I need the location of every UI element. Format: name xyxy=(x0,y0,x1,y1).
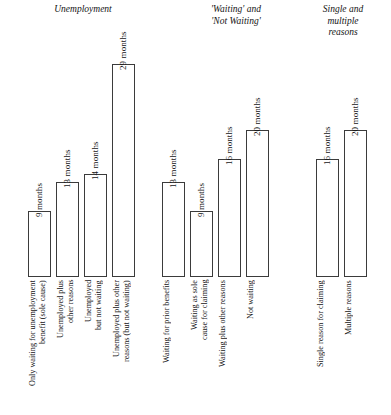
bar xyxy=(344,130,367,277)
bar-category-label: Waiting as sole cause for claiming xyxy=(190,280,217,413)
bar xyxy=(162,182,185,277)
bar-group-1-item-2: 16 monthsWaiting plus other reasons xyxy=(218,0,241,415)
bar-value-label: 9 months xyxy=(196,183,206,217)
bar-category-label: Unemployed plus other reasons xyxy=(56,280,83,413)
bar-category-label: Waiting plus other reasons xyxy=(218,280,245,413)
bar xyxy=(218,159,241,277)
bar-value-label: 20 months xyxy=(350,97,360,136)
bar xyxy=(56,182,79,277)
group-header-single-and-multiple-reasons: Single and multiple reasons xyxy=(298,4,388,39)
bar-group-1-item-1: 9 monthsWaiting as sole cause for claimi… xyxy=(190,0,213,415)
bar-value-label: 13 months xyxy=(168,149,178,188)
bar xyxy=(316,159,339,277)
bar-group-1-item-3: 20 monthsNot waiting xyxy=(246,0,269,415)
bar-category-label: Single reason for claiming xyxy=(316,280,343,413)
bar-value-label: 29 months xyxy=(118,31,128,70)
bar-group-2-item-0: 16 monthsSingle reason for claiming xyxy=(316,0,339,415)
bar-group-0-item-2: 14 monthsUnemployed but not waiting xyxy=(84,0,107,415)
bar xyxy=(246,130,269,277)
bar-category-label: Waiting for prior benefits xyxy=(162,280,189,413)
bar xyxy=(112,64,135,277)
bar xyxy=(28,211,51,277)
bar-value-label: 14 months xyxy=(90,141,100,180)
bar-category-label: Only waiting for unemployment benefit (s… xyxy=(28,280,55,413)
bar-group-0-item-1: 13 monthsUnemployed plus other reasons xyxy=(56,0,79,415)
bar xyxy=(190,211,213,277)
bar-value-label: 20 months xyxy=(252,97,262,136)
bar-value-label: 16 months xyxy=(322,126,332,165)
bar-value-label: 13 months xyxy=(62,149,72,188)
bar-group-0-item-3: 29 monthsUnemployed plus other reasons (… xyxy=(112,0,135,415)
bar-category-label: Unemployed plus other reasons (but not w… xyxy=(112,280,139,413)
bar-group-1-item-0: 13 monthsWaiting for prior benefits xyxy=(162,0,185,415)
bar-chart: Unemployment 'Waiting' and 'Not Waiting'… xyxy=(0,0,391,415)
bar-group-2-item-1: 20 monthsMultiple reasons xyxy=(344,0,367,415)
bar-value-label: 9 months xyxy=(34,183,44,217)
bar xyxy=(84,174,107,277)
bar-category-label: Multiple reasons xyxy=(344,280,371,413)
bar-category-label: Unemployed but not waiting xyxy=(84,280,111,413)
bar-value-label: 16 months xyxy=(224,126,234,165)
bar-category-label: Not waiting xyxy=(246,280,273,413)
bar-group-0-item-0: 9 monthsOnly waiting for unemployment be… xyxy=(28,0,51,415)
